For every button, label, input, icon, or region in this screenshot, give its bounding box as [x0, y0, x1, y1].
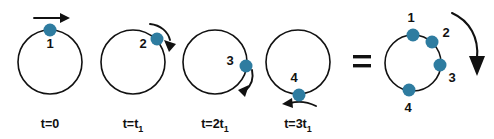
marker-dot-2-summary	[426, 36, 439, 49]
dot-label-1-summary: 1	[407, 10, 414, 25]
marker-dot-4-t3	[293, 89, 306, 102]
panel-t0: 1 t=0	[18, 13, 82, 131]
panel-t3: 4 t=3t1	[266, 30, 330, 134]
dot-label-3-t2: 3	[226, 53, 233, 68]
figure-canvas: 1 t=0 2 t=t1 3 t=2t1	[0, 0, 494, 139]
panel-t2: 3 t=2t1	[183, 30, 253, 134]
dot-label-4-t3: 4	[290, 70, 298, 85]
time-label-t3: t=3t1	[284, 117, 312, 134]
dot-label-3-summary: 3	[448, 70, 455, 85]
panel-summary: 1 2 3 4	[385, 10, 485, 115]
time-label-t1: t=t1	[123, 117, 144, 134]
marker-dot-3-t2	[240, 60, 253, 73]
dot-label-2-t1: 2	[139, 36, 146, 51]
equals-sign	[353, 55, 371, 67]
dot-label-4-summary: 4	[404, 100, 412, 115]
panel-t1: 2 t=t1	[101, 24, 176, 134]
motion-arrow-right-t0	[34, 13, 70, 23]
marker-dot-2-t1	[151, 33, 164, 46]
marker-dot-1-t0	[44, 24, 57, 37]
orbit-circle-t3	[266, 30, 330, 94]
marker-dot-1-summary	[407, 29, 420, 42]
time-label-t2: t=2t1	[201, 117, 229, 134]
time-label-t0: t=0	[41, 117, 59, 131]
dot-label-1-t0: 1	[46, 36, 53, 51]
marker-dot-3-summary	[434, 59, 447, 72]
figure-root: 1 t=0 2 t=t1 3 t=2t1	[0, 0, 494, 139]
orbit-circle-t2	[183, 30, 247, 94]
marker-dot-4-summary	[403, 84, 416, 97]
rotation-arrow-summary	[452, 13, 485, 76]
dot-label-2-summary: 2	[442, 25, 449, 40]
